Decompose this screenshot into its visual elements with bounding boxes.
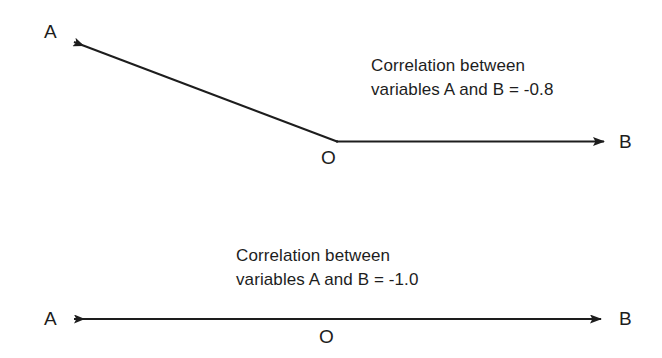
caption-correlation-10: Correlation between variables A and B = … (236, 244, 418, 292)
caption-correlation-08-line1: Correlation between (371, 54, 553, 78)
vector-diagram-canvas (0, 0, 662, 358)
vector-label-a-top: A (44, 22, 57, 41)
caption-correlation-08: Correlation between variables A and B = … (371, 54, 553, 102)
vector-label-b-top: B (619, 132, 632, 151)
origin-label-bottom: O (319, 327, 334, 346)
origin-point-top (336, 140, 338, 142)
vector-label-a-bottom: A (44, 309, 57, 328)
vector-label-b-bottom: B (619, 309, 632, 328)
correlation-figure: A B O Correlation between variables A an… (0, 0, 662, 358)
origin-label-top: O (321, 148, 336, 167)
vector-oa-top (74, 42, 337, 142)
caption-correlation-10-line1: Correlation between (236, 244, 418, 268)
caption-correlation-08-line2: variables A and B = -0.8 (371, 78, 553, 102)
caption-correlation-10-line2: variables A and B = -1.0 (236, 268, 418, 292)
